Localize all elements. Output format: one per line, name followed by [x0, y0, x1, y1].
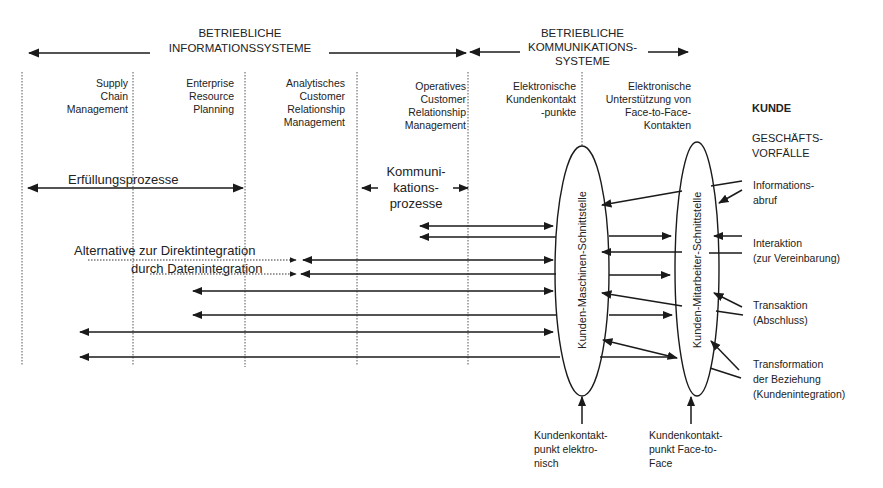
employee-interface-label: Kunden-Mitarbeiter-Schnittstelle [691, 185, 703, 355]
column-label-erp: Enterprise Resource Planning [140, 77, 234, 116]
header-information-systems: BETRIEBLICHE INFORMATIONSSYSTEME [150, 26, 330, 56]
alternative-label-line1: Alternative zur Direktintegration [74, 243, 255, 259]
column-label-electronic-touchpoints: Elektronische Kundenkontakt -punkte [470, 80, 576, 119]
header-communication-systems: BETRIEBLICHE KOMMUNIKATIONS- SYSTEME [515, 26, 650, 68]
alternative-label-line2: durch Datenintegration [131, 261, 263, 277]
column-label-analytical-crm: Analytisches Customer Relationship Manag… [250, 77, 345, 129]
business-event-transaction: Transaktion (Abschluss) [753, 298, 808, 328]
column-label-face-to-face: Elektronische Unterstützung von Face-to-… [585, 80, 691, 132]
between-interface-arrows [600, 191, 682, 358]
business-event-information-retrieval: Informations- abruf [753, 178, 814, 208]
touchpoint-face-label: Kundenkontakt- punkt Face-to- Face [649, 428, 723, 470]
communication-processes-label: Kommuni- kations- prozesse [378, 164, 454, 212]
touchpoint-electronic-label: Kundenkontakt- punkt elektro- nisch [534, 428, 608, 470]
column-label-operational-crm: Operatives Customer Relationship Managem… [360, 80, 466, 132]
business-event-transformation: Transformation der Beziehung (Kundeninte… [753, 357, 845, 402]
column-label-scm: Supply Chain Management [40, 77, 128, 116]
customer-label: KUNDE [752, 102, 791, 115]
fulfillment-processes-label: Erfüllungsprozesse [68, 172, 179, 188]
business-event-interaction: Interaktion (zur Vereinbarung) [753, 236, 840, 266]
machine-interface-label: Kunden-Maschinen-Schnittstelle [576, 185, 588, 355]
business-events-heading: GESCHÄFTS- VORFÄLLE [752, 131, 823, 161]
